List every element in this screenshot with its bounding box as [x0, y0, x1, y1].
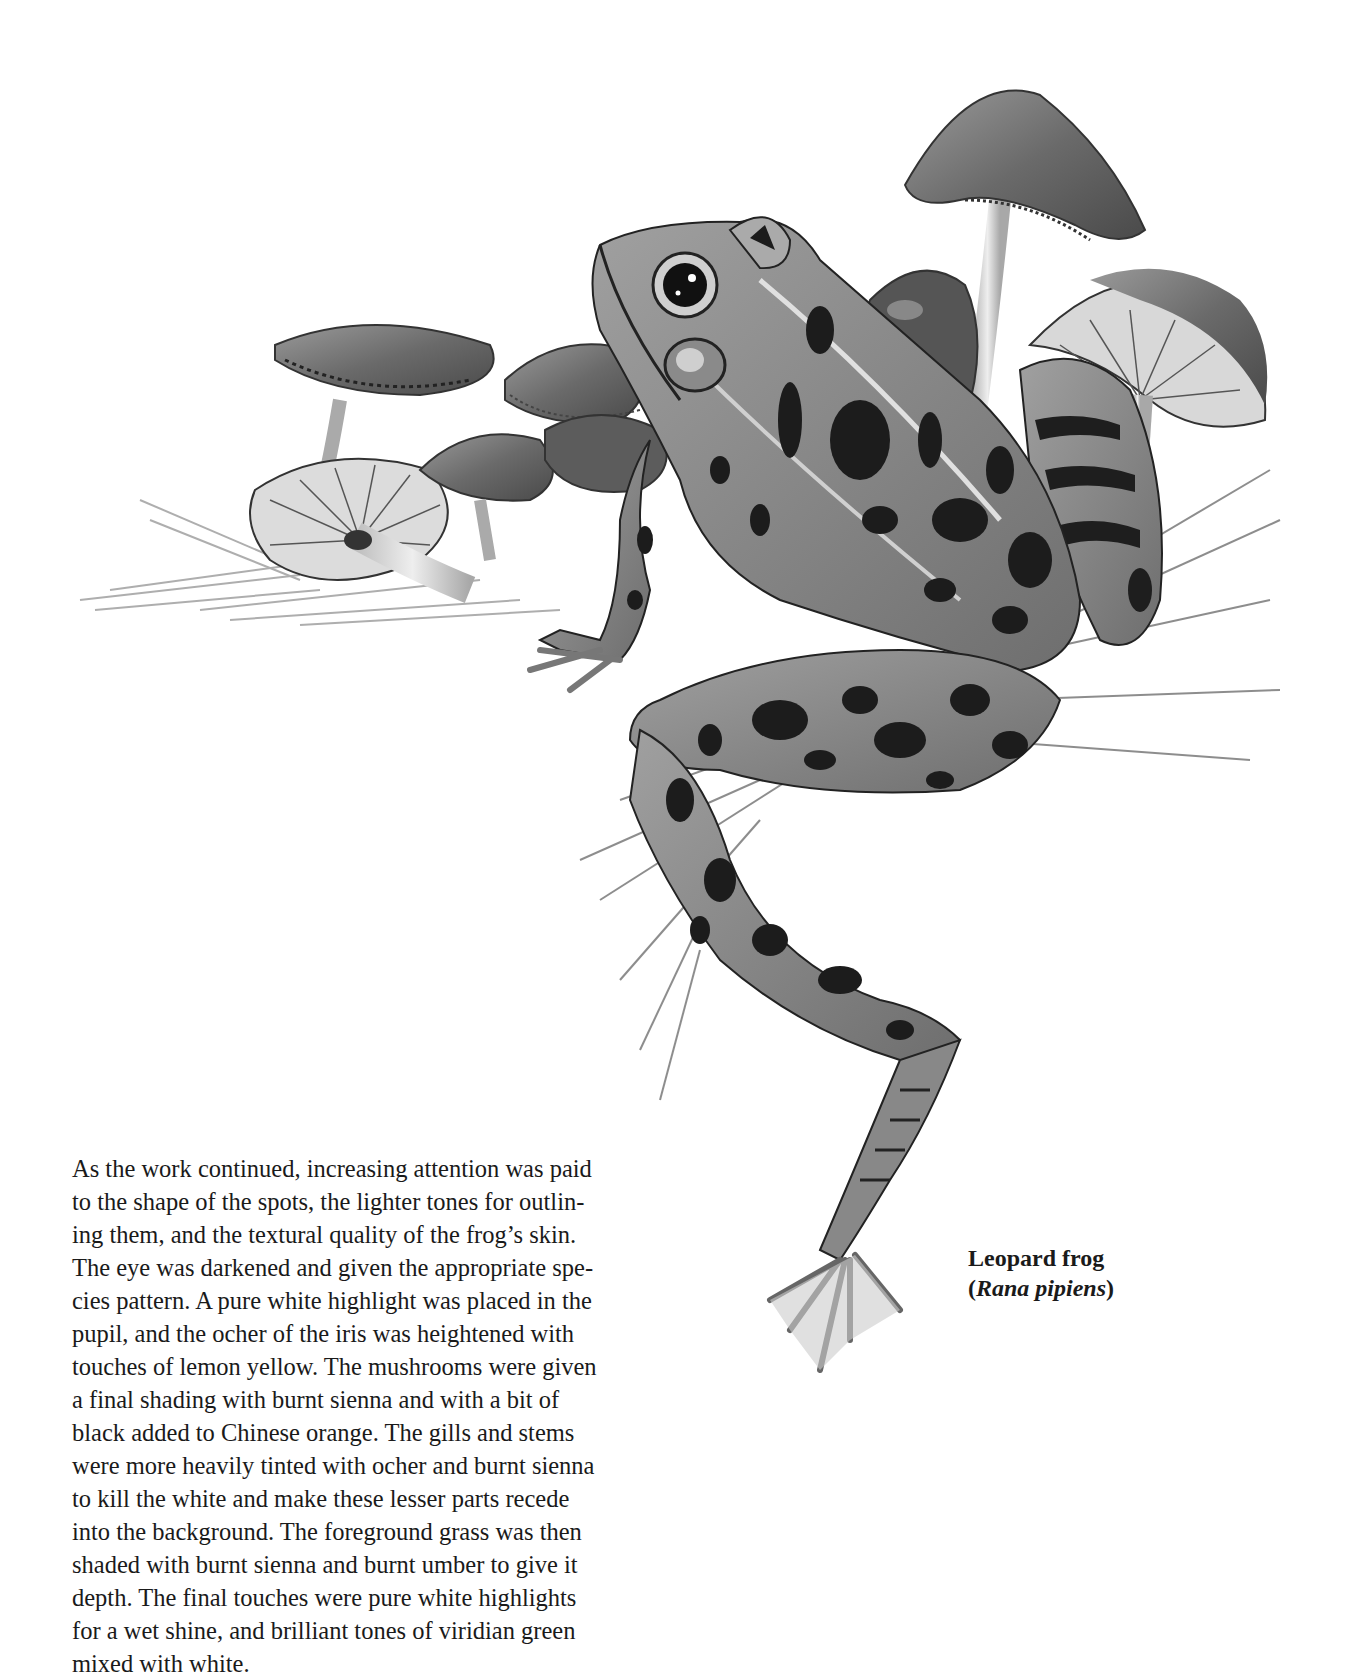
caption-open-paren: ( [968, 1275, 976, 1301]
text-line: cies pattern. A pure white highlight was… [72, 1284, 682, 1317]
caption-common-name: Leopard frog [968, 1243, 1114, 1273]
text-line: shaded with burnt sienna and burnt umber… [72, 1548, 682, 1581]
caption-scientific-name-line: (Rana pipiens) [968, 1273, 1114, 1303]
text-line: were more heavily tinted with ocher and … [72, 1449, 682, 1482]
text-line: black added to Chinese orange. The gills… [72, 1416, 682, 1449]
text-line: to kill the white and make these lesser … [72, 1482, 682, 1515]
text-line: pupil, and the ocher of the iris was hei… [72, 1317, 682, 1350]
text-line: into the background. The foreground gras… [72, 1515, 682, 1548]
caption-close-paren: ) [1106, 1275, 1114, 1301]
text-line: touches of lemon yellow. The mushrooms w… [72, 1350, 682, 1383]
text-line: ing them, and the textural quality of th… [72, 1218, 682, 1251]
figure-caption: Leopard frog (Rana pipiens) [968, 1243, 1114, 1303]
text-line: to the shape of the spots, the lighter t… [72, 1185, 682, 1218]
text-line: As the work continued, increasing attent… [72, 1152, 682, 1185]
caption-scientific-name: Rana pipiens [976, 1275, 1106, 1301]
text-line: mixed with white. [72, 1647, 682, 1676]
text-line: a final shading with burnt sienna and wi… [72, 1383, 682, 1416]
text-line: The eye was darkened and given the appro… [72, 1251, 682, 1284]
body-paragraph: As the work continued, increasing attent… [72, 1152, 682, 1676]
text-line: for a wet shine, and brilliant tones of … [72, 1614, 682, 1647]
text-line: depth. The final touches were pure white… [72, 1581, 682, 1614]
